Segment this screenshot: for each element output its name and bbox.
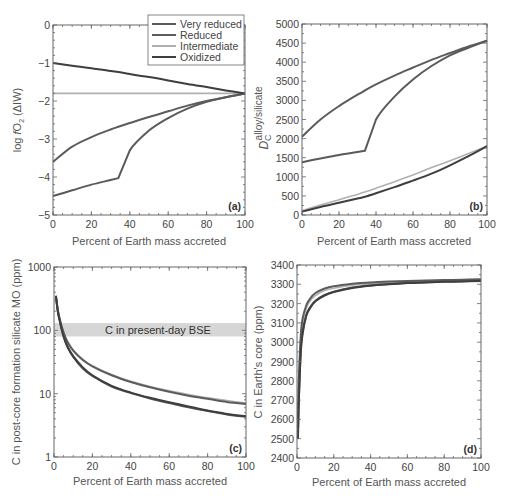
- x-tick-label: 100: [237, 460, 255, 472]
- x-tick-label: 100: [236, 218, 254, 230]
- y-tick-label: 2900: [271, 356, 295, 368]
- panel-d-ylabel: C in Earth's core (ppm): [252, 306, 264, 419]
- y-tick-label: 1000: [276, 171, 300, 183]
- panel-b-ylabel: DCalloy/silicate: [253, 86, 273, 150]
- panel-b-xlabel: Percent of Earth mass accreted: [317, 235, 471, 247]
- panel-d-line-intermediate: [298, 280, 481, 423]
- y-tick-label: 3000: [271, 336, 295, 348]
- x-tick-label: 20: [333, 218, 345, 230]
- x-tick-label: 40: [124, 218, 136, 230]
- panel-d-xlabel: Percent of Earth mass accreted: [312, 476, 466, 488]
- y-tick-label: 5000: [276, 18, 300, 30]
- x-tick-label: 0: [299, 218, 305, 230]
- panel-a-xlabel: Percent of Earth mass accreted: [72, 235, 226, 247]
- y-tick-label: 3500: [276, 75, 300, 87]
- panel-a-series: [53, 63, 245, 196]
- panel-c-axes: 0204060801001000100101: [28, 261, 255, 472]
- panel-a-tag: (a): [228, 200, 241, 212]
- y-tick-label: 100: [33, 324, 51, 336]
- x-tick-label: 80: [202, 460, 214, 472]
- panel-b-ylabel-sub: C: [263, 134, 273, 141]
- panel-d-series: [298, 279, 481, 438]
- panel-d-core-carbon-chart: 0204060801003400330032003100300029002800…: [252, 259, 490, 488]
- y-tick-label: 10: [39, 388, 51, 400]
- x-tick-label: 60: [162, 218, 174, 230]
- y-tick-label: 0: [293, 209, 299, 221]
- y-tick-label: 2500: [276, 114, 300, 126]
- x-tick-label: 20: [328, 461, 340, 473]
- panel-c-xlabel: Percent of Earth mass accreted: [73, 475, 227, 487]
- panel-a-line-reduced: [53, 93, 245, 161]
- panel-d-tag: (d): [464, 443, 477, 455]
- figure: 0204060801000−1−2−3−4−5 Percent of Earth…: [0, 0, 506, 502]
- y-tick-label: 500: [281, 190, 299, 202]
- legend: Very reduced Reduced Intermediate Oxidiz…: [148, 15, 244, 65]
- x-tick-label: 80: [201, 218, 213, 230]
- y-tick-label: 2500: [271, 433, 295, 445]
- y-tick-label: 4000: [276, 56, 300, 68]
- panel-c-tag: (c): [229, 442, 242, 454]
- panel-c-series: [56, 296, 246, 417]
- y-tick-label: 1: [45, 451, 51, 463]
- y-tick-label: 3400: [271, 259, 295, 271]
- panel-d-line-reduced: [298, 279, 481, 419]
- y-tick-label: 1500: [276, 152, 300, 164]
- panel-b-ylabel-main: D: [257, 141, 271, 150]
- panel-b-series: [302, 41, 487, 212]
- x-tick-label: 0: [50, 218, 56, 230]
- x-tick-label: 40: [370, 218, 382, 230]
- panel-c-ylabel: C in post-core formation silicate MO (pp…: [10, 259, 22, 466]
- x-tick-label: 80: [444, 218, 456, 230]
- y-tick-label: 2800: [271, 375, 295, 387]
- panel-b-partition-coefficient-chart: 0204060801005000450040003500300025002000…: [253, 18, 496, 247]
- panel-c-frame: [54, 267, 246, 457]
- y-tick-label: 2700: [271, 394, 295, 406]
- y-tick-label: 2000: [276, 133, 300, 145]
- panel-c-line-oxidized: [56, 296, 246, 416]
- y-tick-label: 0: [44, 19, 50, 31]
- x-tick-label: 100: [472, 461, 490, 473]
- y-tick-label: −3: [38, 133, 50, 145]
- panel-b-line-reduced: [302, 41, 487, 137]
- panel-d-line-very-reduced: [298, 281, 481, 439]
- x-tick-label: 60: [407, 218, 419, 230]
- x-tick-label: 80: [438, 461, 450, 473]
- panel-a-ylabel: log fO2 (ΔIW): [11, 88, 25, 152]
- x-tick-label: 60: [402, 461, 414, 473]
- y-tick-label: −1: [38, 57, 50, 69]
- panel-a-ylabel-log: log: [11, 134, 23, 152]
- x-tick-label: 40: [125, 460, 137, 472]
- panel-b-ylabel-sup: alloy/silicate: [253, 86, 264, 140]
- legend-label-oxidized: Oxidized: [180, 51, 221, 63]
- y-tick-label: −4: [38, 171, 50, 183]
- x-tick-label: 40: [365, 461, 377, 473]
- x-tick-label: 0: [51, 460, 57, 472]
- panel-a-line-oxidized: [53, 63, 245, 93]
- y-tick-label: 4500: [276, 37, 300, 49]
- panel-a-line-very-reduced: [53, 93, 245, 196]
- panel-a-ylabel-iw: (ΔIW): [11, 88, 23, 119]
- y-tick-label: 3000: [276, 94, 300, 106]
- panel-b-line-very-reduced: [302, 41, 487, 163]
- panel-c-silicate-carbon-chart: C in present-day BSE 0204060801001000100…: [10, 259, 255, 487]
- x-tick-label: 20: [87, 460, 99, 472]
- y-tick-label: 2400: [271, 452, 295, 464]
- panel-d-axes: 0204060801003400330032003100300029002800…: [271, 259, 490, 473]
- x-tick-label: 20: [86, 218, 98, 230]
- panel-d-line-oxidized: [298, 281, 481, 439]
- y-tick-label: 2600: [271, 413, 295, 425]
- y-tick-label: 3200: [271, 298, 295, 310]
- y-tick-label: 3100: [271, 317, 295, 329]
- bse-range-label: C in present-day BSE: [105, 324, 211, 336]
- y-tick-label: 3300: [271, 278, 295, 290]
- panel-c-line-reduced: [56, 296, 246, 404]
- y-tick-label: 1000: [28, 261, 52, 273]
- y-tick-label: −2: [38, 95, 50, 107]
- x-tick-label: 100: [478, 218, 496, 230]
- panel-b-tag: (b): [470, 200, 483, 212]
- x-tick-label: 0: [294, 461, 300, 473]
- panel-a-fo2-chart: 0204060801000−1−2−3−4−5 Percent of Earth…: [11, 15, 254, 247]
- y-tick-label: −5: [38, 209, 50, 221]
- x-tick-label: 60: [163, 460, 175, 472]
